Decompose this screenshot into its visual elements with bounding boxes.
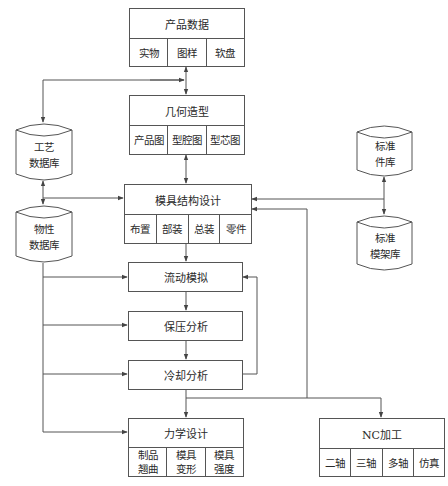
nc-machining-box: NC加工 二轴 三轴 多轴 仿真 xyxy=(319,418,445,477)
mold-design-cell-subassembly: 部装 xyxy=(156,215,188,243)
mechanics-cell-deformation: 模具 变形 xyxy=(166,448,204,476)
mechanics-design-title: 力学设计 xyxy=(129,419,243,447)
mechanics-design-box: 力学设计 制品 翘曲 模具 变形 模具 强度 xyxy=(128,418,244,477)
property-database: 物性 数据库 xyxy=(15,204,73,264)
mold-design-title: 模具结构设计 xyxy=(125,185,251,214)
cooling-analysis-box: 冷却分析 xyxy=(128,360,243,390)
standard-parts-database: 标准 件库 xyxy=(356,124,413,178)
process-database-label: 工艺 数据库 xyxy=(15,139,73,171)
nc-cell-simulation: 仿真 xyxy=(413,449,444,476)
process-database: 工艺 数据库 xyxy=(15,122,73,182)
geometry-title: 几何造型 xyxy=(130,96,244,125)
geometry-box: 几何造型 产品图 型腔图 型芯图 xyxy=(129,95,245,155)
packing-analysis-title: 保压分析 xyxy=(164,318,208,334)
property-database-label: 物性 数据库 xyxy=(15,221,73,253)
standard-parts-database-label: 标准 件库 xyxy=(356,138,413,170)
geometry-cell-product: 产品图 xyxy=(130,126,167,154)
geometry-cell-cavity: 型腔图 xyxy=(167,126,205,154)
product-data-box: 产品数据 实物 图样 软盘 xyxy=(129,8,245,67)
mold-design-cell-parts: 零件 xyxy=(219,215,251,243)
mechanics-cell-strength: 模具 强度 xyxy=(205,448,243,476)
nc-machining-title: NC加工 xyxy=(320,419,444,448)
mold-design-cell-assembly: 总装 xyxy=(188,215,220,243)
flow-simulation-box: 流动模拟 xyxy=(128,262,243,292)
standard-moldbase-database: 标准 模架库 xyxy=(356,214,413,272)
product-data-cell-drawing: 图样 xyxy=(167,39,205,66)
product-data-title: 产品数据 xyxy=(130,9,244,38)
mold-design-cell-layout: 布置 xyxy=(125,215,156,243)
geometry-cell-core: 型芯图 xyxy=(206,126,244,154)
product-data-cell-disk: 软盘 xyxy=(206,39,244,66)
cooling-analysis-title: 冷却分析 xyxy=(164,367,208,383)
standard-moldbase-database-label: 标准 模架库 xyxy=(356,230,413,262)
nc-cell-multiaxis: 多轴 xyxy=(382,449,413,476)
mechanics-cell-warpage: 制品 翘曲 xyxy=(129,448,166,476)
packing-analysis-box: 保压分析 xyxy=(128,311,243,341)
mold-design-box: 模具结构设计 布置 部装 总装 零件 xyxy=(124,184,252,244)
flow-simulation-title: 流动模拟 xyxy=(164,269,208,285)
product-data-cell-physical: 实物 xyxy=(130,39,167,66)
nc-cell-3axis: 三轴 xyxy=(350,449,381,476)
nc-cell-2axis: 二轴 xyxy=(320,449,350,476)
